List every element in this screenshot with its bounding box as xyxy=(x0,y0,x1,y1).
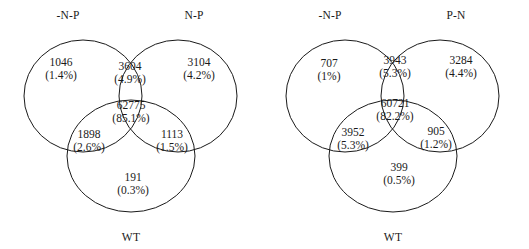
region-count: 191 xyxy=(117,171,149,184)
region-percent: (4.9%) xyxy=(114,73,146,86)
region-percent: (1%) xyxy=(318,70,341,83)
venn-figure: -N-P N-P WT 1046 (1.4%) 3604 (4.9%) 3104… xyxy=(0,0,529,249)
region-percent: (1.2%) xyxy=(420,138,452,151)
region-percent: (4.2%) xyxy=(183,69,215,82)
venn-region-abc: 62775 (85.1%) xyxy=(112,99,149,125)
venn-region-b-only: 3104 (4.2%) xyxy=(183,56,215,82)
venn-panel-left: -N-P N-P WT 1046 (1.4%) 3604 (4.9%) 3104… xyxy=(0,0,264,249)
set-label-top-right: N-P xyxy=(184,9,203,22)
venn-circles-right xyxy=(262,0,526,249)
region-count: 3284 xyxy=(445,54,477,67)
region-count: 1046 xyxy=(45,56,77,69)
region-percent: (5.3%) xyxy=(337,139,369,152)
region-percent: (5.3%) xyxy=(379,67,411,80)
venn-region-ac: 3952 (5.3%) xyxy=(337,126,369,152)
region-count: 399 xyxy=(383,161,415,174)
set-label-top-left: -N-P xyxy=(56,9,79,22)
venn-region-c-only: 399 (0.5%) xyxy=(383,161,415,187)
region-count: 905 xyxy=(420,125,452,138)
set-label-bottom: WT xyxy=(122,231,140,244)
venn-region-bc: 1113 (1.5%) xyxy=(156,128,188,154)
region-percent: (82.2%) xyxy=(376,110,413,123)
venn-region-ab: 3604 (4.9%) xyxy=(114,60,146,86)
venn-region-a-only: 707 (1%) xyxy=(318,57,341,83)
region-percent: (85.1%) xyxy=(112,112,149,125)
region-count: 60721 xyxy=(376,97,413,110)
venn-region-b-only: 3284 (4.4%) xyxy=(445,54,477,80)
venn-region-a-only: 1046 (1.4%) xyxy=(45,56,77,82)
region-percent: (1.5%) xyxy=(156,141,188,154)
venn-region-abc: 60721 (82.2%) xyxy=(376,97,413,123)
set-label-top-left: -N-P xyxy=(318,9,341,22)
venn-region-ab: 3943 (5.3%) xyxy=(379,54,411,80)
set-label-top-right: P-N xyxy=(446,9,465,22)
venn-panel-right: -N-P P-N WT 707 (1%) 3943 (5.3%) 3284 (4… xyxy=(262,0,526,249)
region-percent: (0.5%) xyxy=(383,174,415,187)
region-percent: (4.4%) xyxy=(445,67,477,80)
region-count: 3952 xyxy=(337,126,369,139)
set-label-bottom: WT xyxy=(384,231,402,244)
region-count: 62775 xyxy=(112,99,149,112)
venn-region-ac: 1898 (2.6%) xyxy=(73,128,105,154)
region-count: 1898 xyxy=(73,128,105,141)
region-count: 3943 xyxy=(379,54,411,67)
region-count: 1113 xyxy=(156,128,188,141)
venn-region-c-only: 191 (0.3%) xyxy=(117,171,149,197)
region-percent: (2.6%) xyxy=(73,141,105,154)
region-count: 3104 xyxy=(183,56,215,69)
region-count: 707 xyxy=(318,57,341,70)
region-percent: (0.3%) xyxy=(117,184,149,197)
region-count: 3604 xyxy=(114,60,146,73)
region-percent: (1.4%) xyxy=(45,69,77,82)
venn-region-bc: 905 (1.2%) xyxy=(420,125,452,151)
